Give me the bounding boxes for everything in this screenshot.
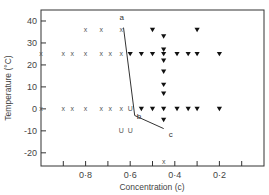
u-marker: U — [128, 105, 133, 112]
triangle-marker — [217, 52, 222, 56]
point-label-c: c — [169, 130, 173, 139]
cross-marker: x — [120, 105, 124, 112]
cross-marker: x — [70, 105, 74, 112]
triangle-marker — [139, 107, 144, 111]
y-tick-label: 0 — [32, 104, 37, 114]
triangle-marker — [150, 28, 155, 32]
cross-marker: x — [84, 50, 88, 57]
triangle-marker — [174, 52, 179, 56]
cross-marker: x — [162, 158, 166, 165]
u-marker: U — [128, 127, 133, 134]
triangle-marker — [161, 107, 166, 111]
triangle-marker — [195, 52, 200, 56]
x-tick-label: 0·6 — [124, 170, 137, 180]
point-label-a: a — [120, 13, 125, 22]
x-axis-title: Concentration (c) — [119, 182, 184, 192]
triangle-marker — [195, 28, 200, 32]
triangle-marker — [186, 52, 191, 56]
y-tick-label: 20 — [27, 60, 37, 70]
y-tick-label: 10 — [27, 82, 37, 92]
triangle-marker — [174, 107, 179, 111]
x-tick-label: 0·8 — [79, 170, 92, 180]
y-axis-title: Temperature (°C) — [3, 55, 13, 120]
cross-marker: x — [70, 50, 74, 57]
cross-marker: x — [120, 50, 124, 57]
x-axis: 0·80·60·40·2 — [63, 161, 241, 180]
plot-frame — [41, 10, 264, 166]
y-tick-label: 30 — [27, 38, 37, 48]
cross-marker: x — [108, 50, 112, 57]
cross-marker: x — [39, 50, 43, 57]
cross-marker: x — [120, 26, 124, 33]
cross-marker: x — [39, 105, 43, 112]
u-marker: U — [119, 127, 124, 134]
y-axis: 403020100-10-20 — [24, 16, 46, 158]
x-tick-label: 0·2 — [213, 170, 226, 180]
cross-marker: x — [99, 26, 103, 33]
cross-marker: x — [84, 105, 88, 112]
triangle-marker — [161, 34, 166, 38]
triangle-marker — [161, 118, 166, 122]
triangle-marker — [150, 52, 155, 56]
cross-marker: x — [108, 105, 112, 112]
triangle-marker — [161, 70, 166, 74]
triangle-marker — [217, 107, 222, 111]
cross-marker: x — [62, 105, 66, 112]
points-layer: xxxxxxxxxxxxxxxxxxUUU — [39, 26, 222, 165]
triangle-marker — [128, 52, 133, 56]
triangle-marker — [161, 91, 166, 95]
phase-chart: 403020100-10-20 0·80·60·40·2 abc xxxxxxx… — [0, 0, 269, 195]
boundary-line — [124, 28, 164, 129]
triangle-marker — [161, 83, 166, 87]
y-tick-label: -20 — [24, 148, 37, 158]
triangle-marker — [195, 107, 200, 111]
point-label-b: b — [137, 112, 142, 121]
cross-marker: x — [99, 105, 103, 112]
triangle-marker — [161, 52, 166, 56]
y-tick-label: -10 — [24, 126, 37, 136]
cross-marker: x — [99, 50, 103, 57]
triangle-marker — [186, 107, 191, 111]
cross-marker: x — [84, 26, 88, 33]
triangle-marker — [150, 107, 155, 111]
y-tick-label: 40 — [27, 16, 37, 26]
triangle-marker — [139, 52, 144, 56]
cross-marker: x — [62, 50, 66, 57]
triangle-marker — [161, 59, 166, 63]
triangle-marker — [161, 48, 166, 52]
x-tick-label: 0·4 — [168, 170, 181, 180]
